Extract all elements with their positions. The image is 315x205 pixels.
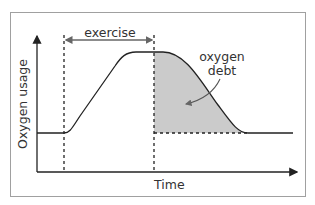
y-axis-label: Oxygen usage: [15, 59, 30, 149]
exercise-label: exercise: [84, 25, 136, 40]
debt-label-line2: debt: [208, 63, 237, 78]
x-axis-label: Time: [153, 177, 185, 192]
oxygen-debt-diagram: exercise oxygen debt Oxygen usage Time: [0, 0, 315, 205]
debt-label-line1: oxygen: [199, 49, 245, 64]
